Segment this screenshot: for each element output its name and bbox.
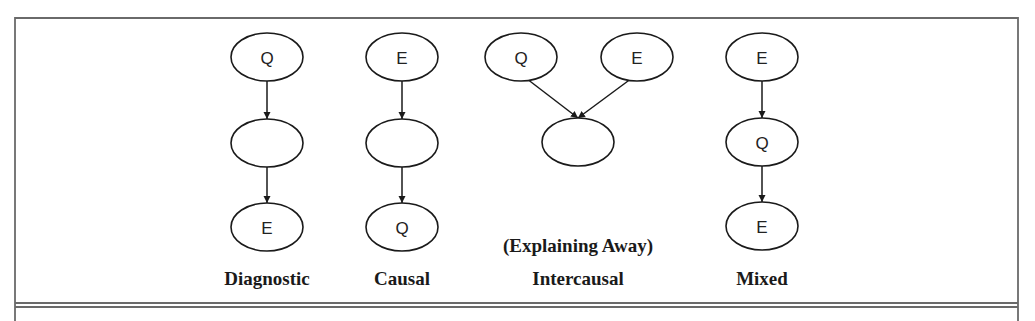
node-label: E	[756, 218, 767, 237]
sublabel-intercausal: (Explaining Away)	[503, 235, 653, 257]
pattern-labels: DiagnosticCausal(Explaining Away)Interca…	[224, 235, 788, 289]
node-mixed-1: E	[726, 33, 798, 81]
node-causal-3: Q	[366, 203, 438, 251]
nodes: QEEQQEEQE	[231, 33, 798, 251]
edge-intercausal-1	[529, 81, 578, 118]
node-label: Q	[514, 49, 527, 68]
node-diagnostic-2	[231, 119, 303, 167]
node-ellipse	[366, 119, 438, 167]
node-ellipse	[542, 118, 614, 166]
label-mixed: Mixed	[736, 268, 788, 289]
edge-intercausal-2	[578, 81, 629, 118]
node-ellipse	[231, 119, 303, 167]
label-causal: Causal	[374, 268, 430, 289]
label-intercausal: Intercausal	[532, 268, 623, 289]
node-diagnostic-1: Q	[231, 33, 303, 81]
node-label: Q	[260, 49, 273, 68]
node-label: E	[261, 219, 272, 238]
node-causal-1: E	[366, 33, 438, 81]
node-intercausal-2: E	[601, 33, 673, 81]
edges	[267, 81, 762, 203]
node-mixed-2: Q	[726, 118, 798, 166]
node-intercausal-3	[542, 118, 614, 166]
node-label: Q	[755, 134, 768, 153]
node-intercausal-1: Q	[485, 33, 557, 81]
node-diagnostic-3: E	[231, 203, 303, 251]
node-causal-2	[366, 119, 438, 167]
label-diagnostic: Diagnostic	[224, 268, 310, 289]
node-mixed-3: E	[726, 202, 798, 250]
node-label: E	[756, 49, 767, 68]
reasoning-patterns-figure: QEEQQEEQE DiagnosticCausal(Explaining Aw…	[0, 0, 1035, 321]
node-label: E	[631, 49, 642, 68]
node-label: E	[396, 49, 407, 68]
node-label: Q	[395, 219, 408, 238]
